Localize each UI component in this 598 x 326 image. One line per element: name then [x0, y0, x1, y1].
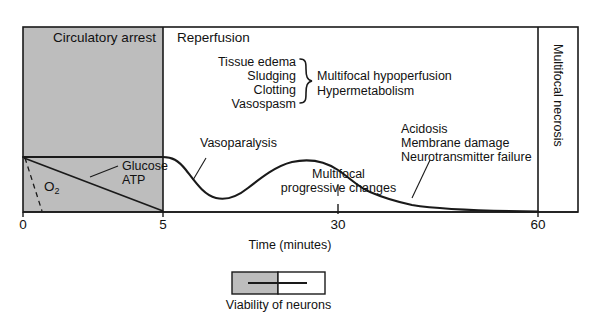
tick-label-0: 0 — [13, 218, 33, 232]
bracket-result-hypermetabolism: Hypermetabolism — [317, 85, 414, 98]
legend-caption: Viability of neurons — [212, 299, 345, 312]
label-atp: ATP — [122, 174, 145, 187]
label-o2-text: O — [44, 179, 55, 194]
bracket-item-vasospasm: Vasospasm — [188, 98, 296, 111]
figure-canvas: Circulatory arrest Reperfusion Multifoca… — [0, 0, 598, 326]
late-event-acidosis: Acidosis — [401, 123, 448, 136]
tick-label-30: 30 — [326, 218, 350, 232]
label-o2: O2 — [44, 180, 60, 197]
bracket-result-multifocal-hypoperfusion: Multifocal hypoperfusion — [317, 70, 452, 83]
bracket-item-sludging: Sludging — [188, 70, 296, 83]
tick-label-5: 5 — [153, 218, 173, 232]
late-event-neurotransmitter-failure: Neurotransmitter failure — [401, 151, 532, 164]
label-o2-subscript: 2 — [55, 186, 60, 196]
bracket-item-tissue-edema: Tissue edema — [188, 56, 296, 69]
late-events-leader — [412, 160, 430, 198]
bracket-item-clotting: Clotting — [188, 84, 296, 97]
label-glucose: Glucose — [122, 160, 168, 173]
label-reperfusion: Reperfusion — [177, 31, 250, 45]
late-event-membrane-damage: Membrane damage — [401, 137, 509, 150]
label-multifocal-progressive-line1: Multifocal — [280, 168, 397, 181]
label-circulatory-arrest: Circulatory arrest — [46, 31, 163, 45]
tick-label-60: 60 — [526, 218, 550, 232]
x-axis-label: Time (minutes) — [200, 239, 380, 252]
label-multifocal-necrosis: Multifocal necrosis — [551, 44, 564, 147]
vasoparalysis-leader — [193, 158, 206, 180]
findings-bracket — [300, 59, 312, 103]
label-multifocal-progressive-line2: progressive changes — [280, 182, 397, 195]
label-vasoparalysis: Vasoparalysis — [200, 137, 277, 150]
